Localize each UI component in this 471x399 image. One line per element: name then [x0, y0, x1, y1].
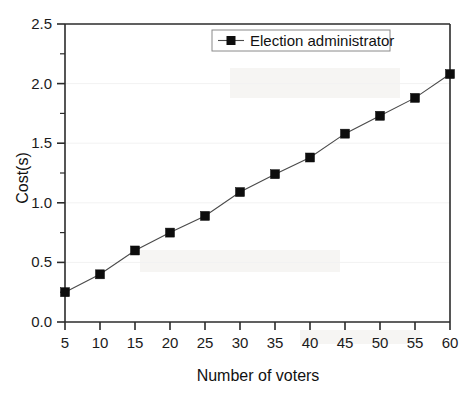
legend-label-election-administrator: Election administrator	[250, 32, 394, 49]
data-point	[96, 270, 105, 279]
x-tick-label: 40	[302, 334, 319, 351]
y-tick-label: 1.5	[31, 134, 52, 151]
x-tick-label: 45	[337, 334, 354, 351]
data-point	[341, 129, 350, 138]
data-point	[166, 228, 175, 237]
data-point	[201, 211, 210, 220]
x-tick-label: 35	[267, 334, 284, 351]
x-tick-label: 30	[232, 334, 249, 351]
line-chart-canvas: 0.0 0.5 1.0 1.5 2.0 2.5 5 10 15	[0, 0, 471, 399]
gridlines	[65, 84, 450, 263]
x-tick-label: 15	[127, 334, 144, 351]
data-point	[131, 246, 140, 255]
legend-marker-square	[227, 36, 236, 45]
x-tick-label: 25	[197, 334, 214, 351]
data-point	[376, 111, 385, 120]
y-tick-label: 2.0	[31, 75, 52, 92]
x-axis-title: Number of voters	[197, 367, 320, 384]
y-tick-label: 0.0	[31, 313, 52, 330]
y-tick-label: 1.0	[31, 194, 52, 211]
chart-figure: 0.0 0.5 1.0 1.5 2.0 2.5 5 10 15	[0, 0, 471, 399]
y-axis-tick-labels: 0.0 0.5 1.0 1.5 2.0 2.5	[31, 15, 52, 330]
x-tick-label: 10	[92, 334, 109, 351]
data-point	[446, 70, 455, 79]
data-point	[61, 288, 70, 297]
x-tick-label: 5	[61, 334, 69, 351]
y-tick-label: 0.5	[31, 253, 52, 270]
x-tick-label: 50	[372, 334, 389, 351]
scan-artifacts	[140, 68, 420, 344]
y-tick-label: 2.5	[31, 15, 52, 32]
legend: Election administrator	[212, 30, 394, 51]
x-tick-label: 60	[442, 334, 459, 351]
data-point	[306, 153, 315, 162]
x-tick-label: 20	[162, 334, 179, 351]
x-tick-label: 55	[407, 334, 424, 351]
data-point	[271, 170, 280, 179]
y-axis-title: Cost(s)	[14, 152, 31, 204]
x-axis-ticks	[65, 322, 450, 330]
data-point	[236, 188, 245, 197]
data-point	[411, 93, 420, 102]
